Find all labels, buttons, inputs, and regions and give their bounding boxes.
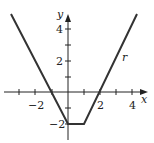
curve-label: r — [122, 51, 128, 64]
x-tick-label-4: 4 — [129, 99, 136, 112]
x-tick-label-neg2: −2 — [28, 99, 44, 112]
x-axis-label: x — [141, 93, 148, 106]
chart: −2 2 4 4 2 −2 x y r — [0, 0, 154, 143]
x-tick-label-2: 2 — [97, 99, 104, 112]
y-axis-arrow-icon — [65, 14, 71, 22]
y-tick-label-neg2: −2 — [49, 118, 65, 131]
y-tick-label-4: 4 — [56, 23, 63, 36]
y-axis-label: y — [56, 8, 64, 21]
y-tick-label-2: 2 — [56, 55, 63, 68]
